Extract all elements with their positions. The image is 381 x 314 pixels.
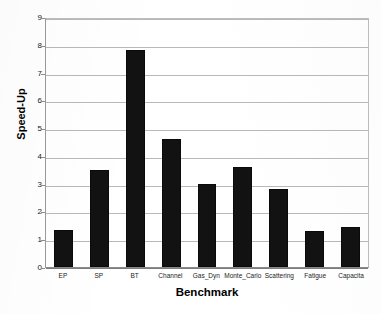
y-axis-tick-labels: 0123456789 — [26, 18, 42, 268]
y-tick-label-8: 8 — [26, 42, 42, 50]
bar-ep — [54, 230, 73, 268]
bar-slot-monte_carlo — [225, 19, 261, 267]
x-tick-label-scattering: Scattering — [261, 271, 297, 285]
bar-slot-bt — [118, 19, 154, 267]
bar-sp — [90, 170, 109, 267]
bar-slot-sp — [82, 19, 118, 267]
bar-fatigue — [305, 231, 324, 267]
y-tick-label-0: 0 — [26, 264, 42, 272]
x-axis-title: Benchmark — [45, 286, 369, 298]
bar-channel — [162, 139, 181, 267]
y-tick-label-5: 5 — [26, 125, 42, 133]
y-tick-label-7: 7 — [26, 70, 42, 78]
x-tick-label-bt: BT — [117, 271, 153, 285]
y-tick-label-6: 6 — [26, 97, 42, 105]
x-tick-label-gas_dyn: Gas_Dyn — [188, 271, 224, 285]
bar-capacita — [341, 227, 360, 267]
x-tick-label-ep: EP — [45, 271, 81, 285]
y-tick-label-4: 4 — [26, 153, 42, 161]
x-tick-label-fatigue: Fatigue — [297, 271, 333, 285]
bar-slot-capacita — [332, 19, 368, 267]
bar-gas_dyn — [198, 184, 217, 267]
y-tick-label-2: 2 — [26, 208, 42, 216]
bar-slot-gas_dyn — [189, 19, 225, 267]
bar-series — [46, 19, 368, 267]
bar-chart-figure: Speed-Up 0123456789 EPSPBTChannelGas_Dyn… — [0, 0, 381, 314]
gridline-0 — [46, 268, 368, 269]
bar-bt — [126, 50, 145, 267]
bar-slot-channel — [153, 19, 189, 267]
y-tick-label-9: 9 — [26, 14, 42, 22]
bar-slot-ep — [46, 19, 82, 267]
x-axis-tick-labels: EPSPBTChannelGas_DynMonte_CarloScatterin… — [45, 271, 369, 285]
y-tick-mark-0 — [41, 268, 45, 269]
y-tick-label-1: 1 — [26, 236, 42, 244]
y-tick-label-3: 3 — [26, 181, 42, 189]
bar-slot-scattering — [261, 19, 297, 267]
bar-slot-fatigue — [296, 19, 332, 267]
x-tick-label-channel: Channel — [153, 271, 189, 285]
bar-scattering — [269, 189, 288, 267]
x-tick-label-sp: SP — [81, 271, 117, 285]
bar-monte_carlo — [233, 167, 252, 267]
x-tick-label-capacita: Capacita — [333, 271, 369, 285]
plot-area — [45, 18, 369, 268]
x-tick-label-monte_carlo: Monte_Carlo — [224, 271, 261, 285]
